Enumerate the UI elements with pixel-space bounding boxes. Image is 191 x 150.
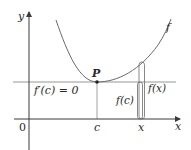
derivative-annotation: f′(c) = 0: [33, 84, 79, 97]
diagram-canvas: y x 0 f P c x f′(c) = 0 f(c) f(x): [0, 0, 191, 150]
curve-label-f: f: [165, 21, 172, 34]
fc-label: f(c): [115, 94, 134, 106]
point-label-p: P: [91, 67, 101, 80]
y-axis-label: y: [17, 10, 25, 23]
point-p: [95, 80, 99, 84]
tick-label-x: x: [138, 121, 145, 134]
curve-f: [56, 19, 171, 82]
x-axis-label: x: [175, 120, 182, 133]
tick-label-c: c: [94, 121, 100, 134]
fc-bracket: [138, 82, 143, 119]
origin-label: 0: [19, 121, 26, 134]
fx-bracket: [139, 62, 145, 119]
fx-label: f(x): [147, 82, 166, 94]
